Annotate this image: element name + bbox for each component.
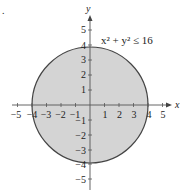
svg-text:−2: −2 xyxy=(75,130,86,141)
svg-text:−5: −5 xyxy=(11,109,22,120)
svg-text:−2: −2 xyxy=(55,109,66,120)
x-axis-label: x xyxy=(174,99,180,110)
y-axis-arrow-icon xyxy=(88,15,93,21)
svg-text:2: 2 xyxy=(117,109,122,120)
svg-text:3: 3 xyxy=(81,54,86,65)
chart: x y −5 −4 −3 −2 −1 1 2 3 4 5 xyxy=(0,0,184,194)
svg-text:2: 2 xyxy=(81,69,86,80)
svg-text:4: 4 xyxy=(147,109,152,120)
svg-text:3: 3 xyxy=(132,109,137,120)
svg-text:−5: −5 xyxy=(75,174,86,185)
svg-text:−3: −3 xyxy=(75,145,86,156)
svg-text:4: 4 xyxy=(81,40,86,51)
svg-text:1: 1 xyxy=(81,84,86,95)
svg-text:−1: −1 xyxy=(75,115,86,126)
x-axis-arrow-icon xyxy=(166,103,172,108)
svg-text:−4: −4 xyxy=(75,159,86,170)
svg-text:−4: −4 xyxy=(27,109,38,120)
svg-text:5: 5 xyxy=(81,24,86,35)
inequality-label: x² + y² ≤ 16 xyxy=(101,34,153,46)
svg-text:1: 1 xyxy=(103,109,108,120)
corner-mark: . xyxy=(2,5,5,16)
svg-text:−3: −3 xyxy=(41,109,52,120)
y-axis-label: y xyxy=(85,3,91,14)
svg-text:5: 5 xyxy=(161,109,166,120)
